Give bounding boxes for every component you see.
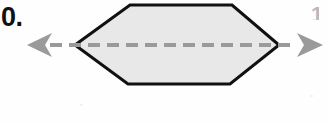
figure-canvas — [0, 0, 329, 122]
right-arrow-icon — [297, 33, 323, 57]
figure-container: 0. 1 — [0, 0, 329, 122]
scan-speck — [80, 104, 83, 106]
left-arrow-icon — [27, 33, 52, 57]
item-number-label: 0. — [1, 2, 23, 32]
scan-speck — [310, 95, 313, 97]
clipped-edge-mark: 1 — [311, 4, 319, 20]
